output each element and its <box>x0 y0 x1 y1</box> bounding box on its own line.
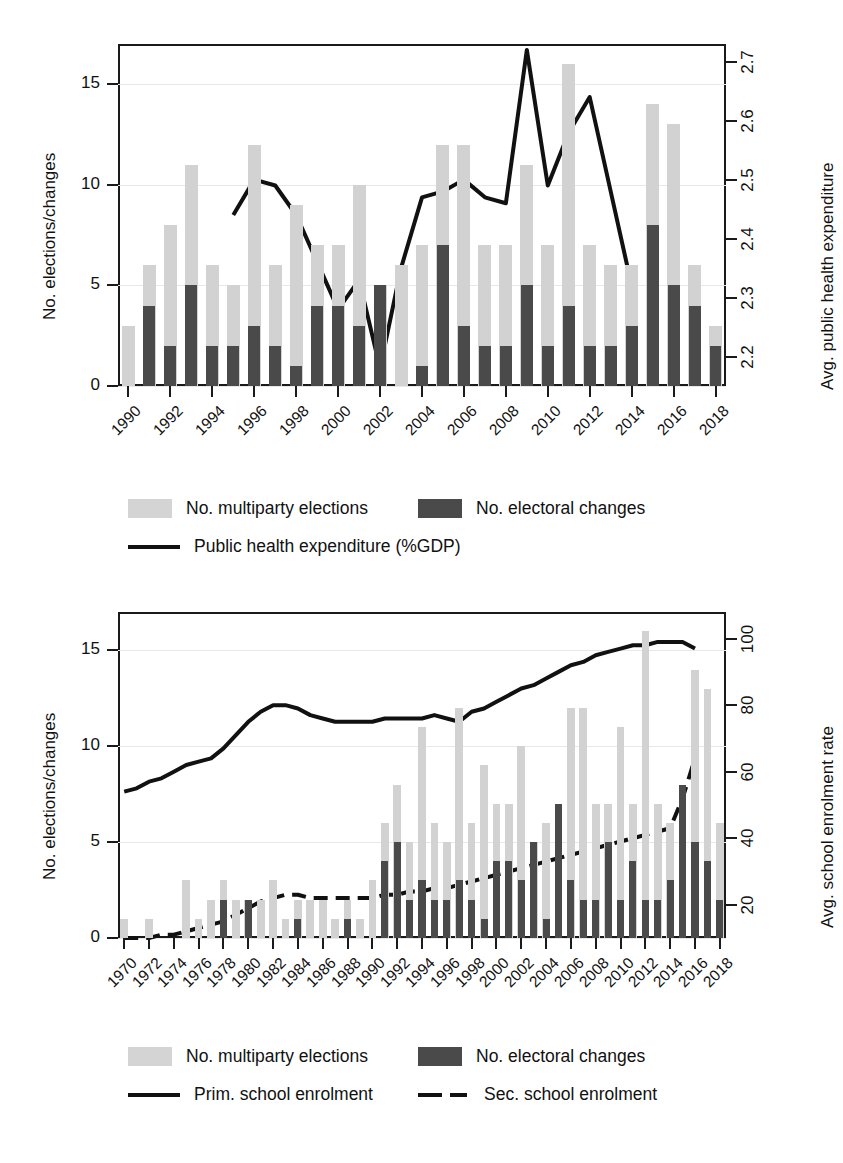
legend-item: Public health expenditure (%GDP) <box>128 536 461 557</box>
legend-label: Prim. school enrolment <box>194 1084 373 1105</box>
bar-electoral-changes <box>381 861 388 938</box>
x-tick-mark <box>127 386 129 397</box>
x-tick-mark <box>222 938 224 949</box>
bar-multiparty-elections <box>282 919 290 938</box>
x-tick-mark <box>173 938 175 949</box>
y-tick-label-right: 60 <box>738 762 758 781</box>
bar-electoral-changes <box>443 900 450 938</box>
bar-electoral-changes <box>248 326 260 386</box>
bar-electoral-changes <box>418 880 425 938</box>
y-tick-mark-right <box>726 120 737 122</box>
y-tick-mark-left <box>107 745 118 747</box>
chart-panel-public-health: 051015 2.22.32.42.52.62.7 19901992199419… <box>0 0 843 580</box>
y-tick-label-right: 2.2 <box>738 345 758 369</box>
x-tick-label: 1996 <box>223 402 271 450</box>
x-tick-mark <box>211 386 213 397</box>
y-tick-mark-left <box>107 649 118 651</box>
y-tick-mark-right <box>726 904 737 906</box>
bar-electoral-changes <box>269 346 281 386</box>
x-tick-mark <box>471 938 473 949</box>
bar-multiparty-elections <box>182 880 190 938</box>
bar-electoral-changes <box>679 785 686 938</box>
bar-multiparty-elections <box>290 205 303 386</box>
bar-electoral-changes <box>716 900 723 938</box>
x-tick-mark <box>520 938 522 949</box>
bar-electoral-changes <box>584 346 596 386</box>
x-tick-mark <box>337 386 339 397</box>
y-tick-mark-left <box>107 83 118 85</box>
y-axis-left-title-bottom: No. elections/changes <box>40 713 60 880</box>
bar-electoral-changes <box>456 880 463 938</box>
x-tick-label: 1998 <box>265 402 313 450</box>
bar-electoral-changes <box>416 366 428 386</box>
x-tick-mark <box>694 938 696 949</box>
legend-label: No. electoral changes <box>476 498 645 519</box>
x-tick-mark <box>547 386 549 397</box>
bar-electoral-changes <box>642 900 649 938</box>
y-tick-mark-right <box>726 638 737 640</box>
x-tick-mark <box>198 938 200 949</box>
x-tick-label: 2010 <box>516 402 564 450</box>
bar-multiparty-elections <box>269 880 277 938</box>
y-tick-label-right: 100 <box>738 624 758 652</box>
y-axis-left-title-top: No. elections/changes <box>40 153 60 320</box>
y-tick-mark-right <box>726 238 737 240</box>
y-tick-label-left: 5 <box>66 831 100 851</box>
bar-electoral-changes <box>647 225 659 386</box>
bar-multiparty-elections <box>195 919 203 938</box>
legend-label: No. multiparty elections <box>186 1046 368 1067</box>
bar-multiparty-elections <box>145 919 153 938</box>
x-tick-mark <box>505 386 507 397</box>
bar-electoral-changes <box>567 880 574 938</box>
x-tick-mark <box>446 938 448 949</box>
legend-label: No. electoral changes <box>476 1046 645 1067</box>
bar-electoral-changes <box>592 900 599 938</box>
x-tick-mark <box>297 938 299 949</box>
bar-multiparty-elections <box>122 326 135 386</box>
y-tick-label-right: 2.4 <box>738 227 758 251</box>
bar-electoral-changes <box>689 306 701 386</box>
bar-electoral-changes <box>458 326 470 386</box>
line-prim-school-enrolment <box>124 642 695 792</box>
x-tick-mark <box>421 938 423 949</box>
x-tick-label: 2006 <box>433 402 481 450</box>
x-tick-label: 2000 <box>307 402 355 450</box>
bar-electoral-changes <box>164 346 176 386</box>
y-axis-right-title-top: Avg. public health expenditure <box>818 163 838 390</box>
plot-area-public-health <box>118 44 726 386</box>
bar-multiparty-elections <box>642 631 650 938</box>
bar-electoral-changes <box>667 880 674 938</box>
bar-multiparty-elections <box>319 900 327 938</box>
y-tick-mark-left <box>107 937 118 939</box>
x-tick-mark <box>715 386 717 397</box>
bar-electoral-changes <box>626 326 638 386</box>
bar-electoral-changes <box>245 900 252 938</box>
y-tick-label-left: 10 <box>66 735 100 755</box>
bar-electoral-changes <box>406 900 413 938</box>
bar-electoral-changes <box>437 245 449 386</box>
bar-electoral-changes <box>563 306 575 386</box>
bar-multiparty-elections <box>232 900 240 938</box>
y-tick-mark-right <box>726 179 737 181</box>
y-tick-label-right: 2.7 <box>738 50 758 74</box>
y-tick-label-left: 5 <box>66 274 100 294</box>
bar-electoral-changes <box>353 326 365 386</box>
y-tick-label-right: 40 <box>738 829 758 848</box>
bar-electoral-changes <box>530 842 537 938</box>
bar-electoral-changes <box>493 861 500 938</box>
bar-electoral-changes <box>691 842 698 938</box>
chart-panel-school-enrolment: 051015 20406080100 197019721974197619781… <box>0 580 843 1163</box>
bar-electoral-changes <box>668 285 680 386</box>
bar-multiparty-elections <box>306 900 314 938</box>
y-tick-mark-right <box>726 61 737 63</box>
bar-electoral-changes <box>290 366 302 386</box>
bar-electoral-changes <box>143 306 155 386</box>
legend-swatch-light-icon <box>128 1047 172 1066</box>
bar-electoral-changes <box>518 880 525 938</box>
x-tick-mark <box>272 938 274 949</box>
x-tick-mark <box>247 938 249 949</box>
x-tick-mark <box>570 938 572 949</box>
x-tick-mark <box>719 938 721 949</box>
x-tick-label: 1994 <box>181 402 229 450</box>
bar-multiparty-elections <box>416 245 429 386</box>
